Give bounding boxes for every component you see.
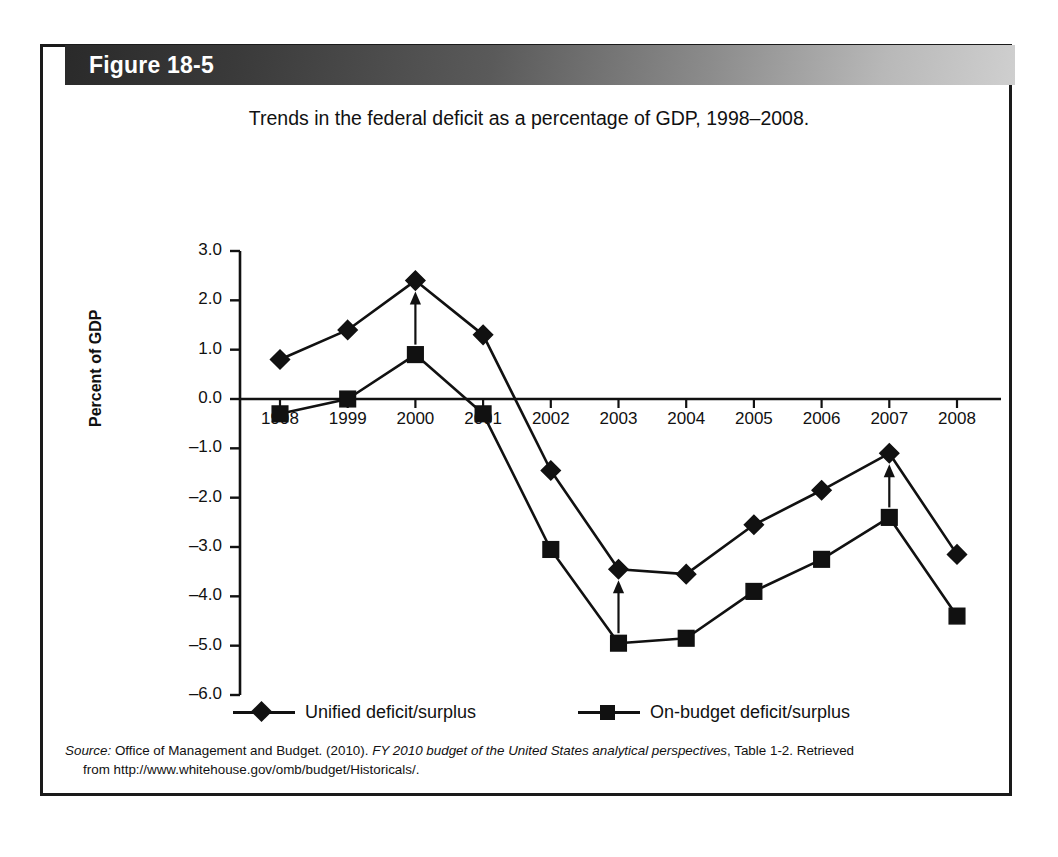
data-point-diamond — [880, 444, 899, 463]
y-axis-tick-label: 2.0 — [164, 289, 222, 309]
source-text-1: Office of Management and Budget. (2010). — [111, 743, 372, 758]
x-axis-tick-label: 2005 — [719, 409, 789, 429]
legend-item-unified[interactable]: Unified deficit/surplus — [233, 695, 476, 729]
y-axis-tick-label: –1.0 — [164, 437, 222, 457]
data-point-square — [949, 608, 965, 624]
x-axis-tick-label: 2003 — [584, 409, 654, 429]
source-note: Source: Office of Management and Budget.… — [65, 741, 995, 780]
data-point-square — [814, 552, 830, 568]
annotation-arrow-head — [410, 292, 421, 305]
data-point-square — [408, 347, 424, 363]
x-axis-tick-label: 2002 — [516, 409, 586, 429]
legend-label: On-budget deficit/surplus — [650, 702, 850, 723]
data-point-square — [678, 630, 694, 646]
data-point-diamond — [541, 461, 560, 480]
data-point-diamond — [609, 560, 628, 579]
y-axis-tick-label: 0.0 — [164, 388, 222, 408]
source-label: Source: — [65, 743, 111, 758]
data-point-diamond — [812, 481, 831, 500]
figure-frame: Figure 18-5 Trends in the federal defici… — [40, 44, 1012, 796]
x-axis-tick-label: 2001 — [448, 409, 518, 429]
x-axis-tick-label: 2000 — [380, 409, 450, 429]
legend-label: Unified deficit/surplus — [305, 702, 476, 723]
x-axis-tick-label: 2006 — [787, 409, 857, 429]
y-axis-tick-label: –3.0 — [164, 536, 222, 556]
data-point-diamond — [271, 350, 290, 369]
data-point-diamond — [744, 515, 763, 534]
x-axis-tick-label: 1998 — [245, 409, 315, 429]
data-point-square — [340, 391, 356, 407]
y-axis-tick-label: –2.0 — [164, 487, 222, 507]
legend-item-on-budget[interactable]: On-budget deficit/surplus — [578, 695, 850, 729]
annotation-arrow-head — [884, 464, 895, 477]
x-axis-tick-label: 2008 — [922, 409, 992, 429]
y-axis-tick-label: 1.0 — [164, 339, 222, 359]
annotation-arrow-head — [613, 580, 624, 593]
y-axis-tick-label: –5.0 — [164, 635, 222, 655]
legend-diamond-icon — [233, 702, 295, 722]
data-point-square — [543, 542, 559, 558]
source-italic-title: FY 2010 budget of the United States anal… — [372, 743, 727, 758]
data-point-square — [882, 510, 898, 526]
source-line-2: from http://www.whitehouse.gov/omb/budge… — [83, 760, 995, 779]
data-point-square — [611, 635, 627, 651]
data-point-square — [746, 584, 762, 600]
chart-legend: Unified deficit/surplusOn-budget deficit… — [233, 695, 933, 729]
data-point-diamond — [338, 320, 357, 339]
y-axis-tick-label: 3.0 — [164, 240, 222, 260]
figure-page: Figure 18-5 Trends in the federal defici… — [0, 0, 1058, 857]
data-point-diamond — [677, 565, 696, 584]
y-axis-tick-label: –6.0 — [164, 684, 222, 704]
x-axis-tick-label: 1999 — [313, 409, 383, 429]
x-axis-tick-label: 2007 — [854, 409, 924, 429]
x-axis-tick-label: 2004 — [651, 409, 721, 429]
legend-square-icon — [578, 702, 640, 722]
source-text-2: , Table 1-2. Retrieved — [727, 743, 854, 758]
y-axis-tick-label: –4.0 — [164, 585, 222, 605]
data-point-diamond — [948, 545, 967, 564]
